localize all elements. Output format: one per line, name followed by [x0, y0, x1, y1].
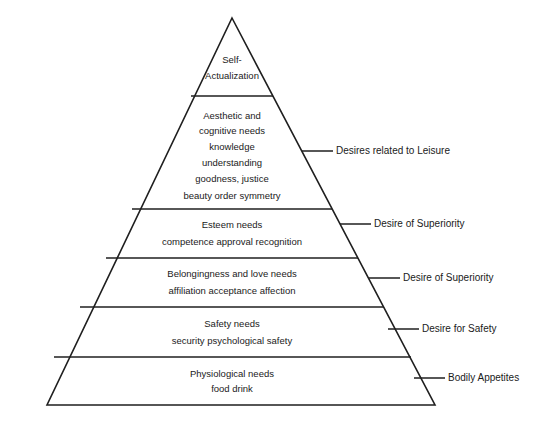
tier-6-physiological: Physiological needs food drink — [190, 368, 274, 394]
tier-2-aesthetic-cognitive: Aesthetic and cognitive needs knowledge … — [183, 110, 280, 201]
pyramid-diagram: Self- Actualization Aesthetic and cognit… — [0, 0, 560, 431]
annotation-1-label: Desires related to Leisure — [336, 145, 450, 156]
tier-4-item-1: affiliation acceptance affection — [169, 285, 296, 296]
tier-3-esteem: Esteem needs competence approval recogni… — [162, 219, 302, 247]
annotation-2-label: Desire of Superiority — [374, 218, 465, 229]
tier-1-heading-line2: Actualization — [205, 70, 259, 81]
tier-5-safety: Safety needs security psychological safe… — [172, 318, 293, 346]
tier-2-item-4: beauty order symmetry — [183, 190, 280, 201]
tier-6-heading-line1: Physiological needs — [190, 368, 274, 379]
diagram-canvas: Self- Actualization Aesthetic and cognit… — [0, 0, 560, 431]
annotation-1-leisure: Desires related to Leisure — [302, 145, 450, 156]
tier-2-heading-line2: cognitive needs — [199, 125, 265, 136]
tier-5-item-1: security psychological safety — [172, 335, 293, 346]
annotation-4-label: Desire for Safety — [422, 323, 496, 334]
tier-5-heading-line1: Safety needs — [204, 318, 260, 329]
annotation-3-superiority: Desire of Superiority — [369, 272, 494, 283]
tier-2-heading-line1: Aesthetic and — [203, 110, 261, 121]
tier-4-heading-line1: Belongingness and love needs — [167, 268, 297, 279]
annotation-5-bodily-appetites: Bodily Appetites — [414, 372, 519, 383]
annotation-4-safety: Desire for Safety — [388, 323, 496, 334]
annotation-3-label: Desire of Superiority — [403, 272, 494, 283]
tier-2-item-1: knowledge — [209, 141, 254, 152]
annotation-5-label: Bodily Appetites — [448, 372, 519, 383]
tier-2-item-2: understanding — [202, 157, 262, 168]
tier-6-item-1: food drink — [211, 383, 253, 394]
annotation-2-superiority: Desire of Superiority — [340, 218, 465, 229]
tier-4-belongingness: Belongingness and love needs affiliation… — [167, 268, 297, 296]
tier-2-item-3: goodness, justice — [195, 173, 268, 184]
tier-3-item-1: competence approval recognition — [162, 236, 302, 247]
tier-1-heading-line1: Self- — [222, 54, 242, 65]
tier-3-heading-line1: Esteem needs — [202, 219, 263, 230]
